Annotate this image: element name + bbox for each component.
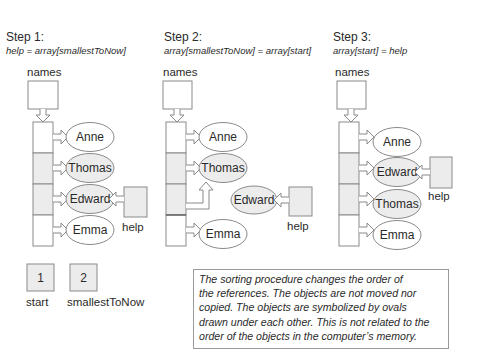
ref-arrow-icon [359,223,374,237]
svg-text:Anne: Anne [383,135,411,149]
step-2: Step 2: array[smallestToNow] = array[sta… [163,30,312,249]
step-3-title: Step 3: [333,30,371,44]
svg-text:Edward: Edward [70,192,111,206]
svg-text:Thomas: Thomas [201,161,244,175]
step-2-names-label: names [163,66,198,78]
step-2-help-label: help [287,220,309,232]
step-3-names-variable [337,81,366,109]
explanation-note: The sorting procedure changes the order … [193,269,449,349]
step-3-names-arrow-icon [344,109,358,122]
svg-text:Edward: Edward [234,193,275,207]
step-1-code: help = array[smallestToNow] [6,45,126,56]
svg-text:Anne: Anne [209,130,237,144]
step-1-help-variable [124,187,147,217]
ref-arrow-icon [359,130,374,144]
step-1-title: Step 1: [6,30,44,44]
variables: 1 start 2 smallestToNow [26,264,145,308]
start-value: 1 [37,271,44,285]
step-2-names-variable [163,81,192,109]
step-2-title: Step 2: [164,30,202,44]
step-3: Step 3: array[start] = help names Anne E… [333,30,452,250]
step-2-code: array[smallestToNow] = array[start] [164,45,312,56]
svg-text:Thomas: Thomas [68,161,111,175]
step-1-array [33,122,53,246]
step-2-help-variable [289,187,312,216]
step-2-names-arrow-icon [170,109,184,122]
svg-text:Emma: Emma [380,228,415,242]
step-3-array [339,122,359,246]
svg-text:Emma: Emma [206,227,241,241]
step-1-help-label: help [122,221,144,233]
step-2-array [166,122,186,246]
step-1: Step 1: help = array[smallestToNow] name… [6,30,147,246]
smallest-to-now-value: 2 [80,271,87,285]
svg-text:Emma: Emma [73,223,108,237]
start-label: start [26,296,49,308]
step-3-help-label: help [428,190,450,202]
bent-ref-arrow-icon [186,182,213,209]
ref-arrow-icon [359,192,374,206]
svg-text:Edward: Edward [377,165,418,179]
svg-text:Thomas: Thomas [375,197,418,211]
step-3-code: array[start] = help [333,45,407,56]
step-3-help-variable [430,157,452,188]
smallest-to-now-label: smallestToNow [67,296,145,308]
step-3-names-label: names [335,66,370,78]
ref-arrow-icon [359,161,374,175]
help-arrow-icon [274,193,289,207]
step-1-names-label: names [27,66,62,78]
step-1-names-arrow-icon [36,109,50,122]
svg-text:Anne: Anne [76,130,104,144]
step-1-names-variable [28,81,58,109]
